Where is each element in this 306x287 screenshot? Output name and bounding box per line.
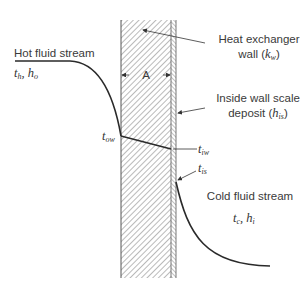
wall-label-line2: wall (kw) [237, 47, 280, 62]
hot-stream-label: Hot fluid stream [14, 47, 95, 59]
t-iw-label: tiw [198, 142, 210, 157]
t-is-leader-line [178, 171, 196, 180]
heat-exchanger-wall [121, 20, 171, 278]
t-ow-label: tow [102, 129, 115, 144]
area-label: A [142, 69, 150, 81]
deposit-label-line1: Inside wall scale [216, 92, 300, 104]
hot-stream-variables: th, ho [14, 66, 38, 81]
cold-stream-variables: tc, hi [233, 211, 255, 226]
t-is-label: tis [198, 161, 207, 176]
heat-exchanger-diagram: A Hot fluid stream th, ho Heat exchanger… [0, 0, 306, 287]
deposit-label-line2: deposit (his) [228, 106, 288, 121]
wall-label-line1: Heat exchanger [218, 33, 299, 45]
deposit-leader-line [178, 108, 205, 113]
cold-stream-label: Cold fluid stream [207, 190, 293, 202]
